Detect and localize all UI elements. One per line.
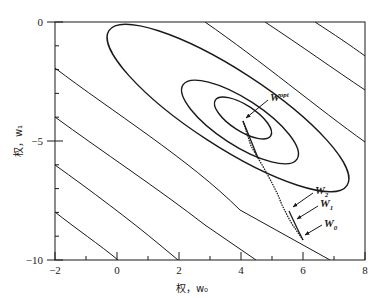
x-tick-label: −2 [49, 264, 61, 276]
x-tick-label: 4 [238, 264, 244, 276]
descent-trajectory [243, 121, 303, 240]
wopt-label: Wopt [270, 91, 290, 103]
x-axis-label: 权，w₀ [176, 282, 208, 294]
contour-chart: −2 0 2 4 6 8 0 −5 −10 权，w₀ 权，w₁ Wopt W2 … [0, 0, 384, 297]
x-tick-label: 8 [362, 264, 368, 276]
y-tick-label: −10 [26, 254, 44, 266]
w1-label: W1 [320, 197, 333, 212]
w0-label: W0 [324, 217, 338, 232]
y-tick-label: 0 [38, 16, 44, 28]
contour-ellipses [88, 0, 368, 217]
plot-area [55, 0, 368, 260]
x-tick-labels: −2 0 2 4 6 8 [49, 264, 368, 276]
x-tick-label: 6 [300, 264, 306, 276]
y-tick-label: −5 [31, 135, 43, 147]
x-tick-label: 2 [176, 264, 182, 276]
annotation-w0: W0 [305, 217, 338, 235]
y-axis-label: 权，w₁ [12, 125, 24, 157]
x-tick-label: 0 [114, 264, 120, 276]
y-tick-labels: 0 −5 −10 [26, 16, 44, 266]
